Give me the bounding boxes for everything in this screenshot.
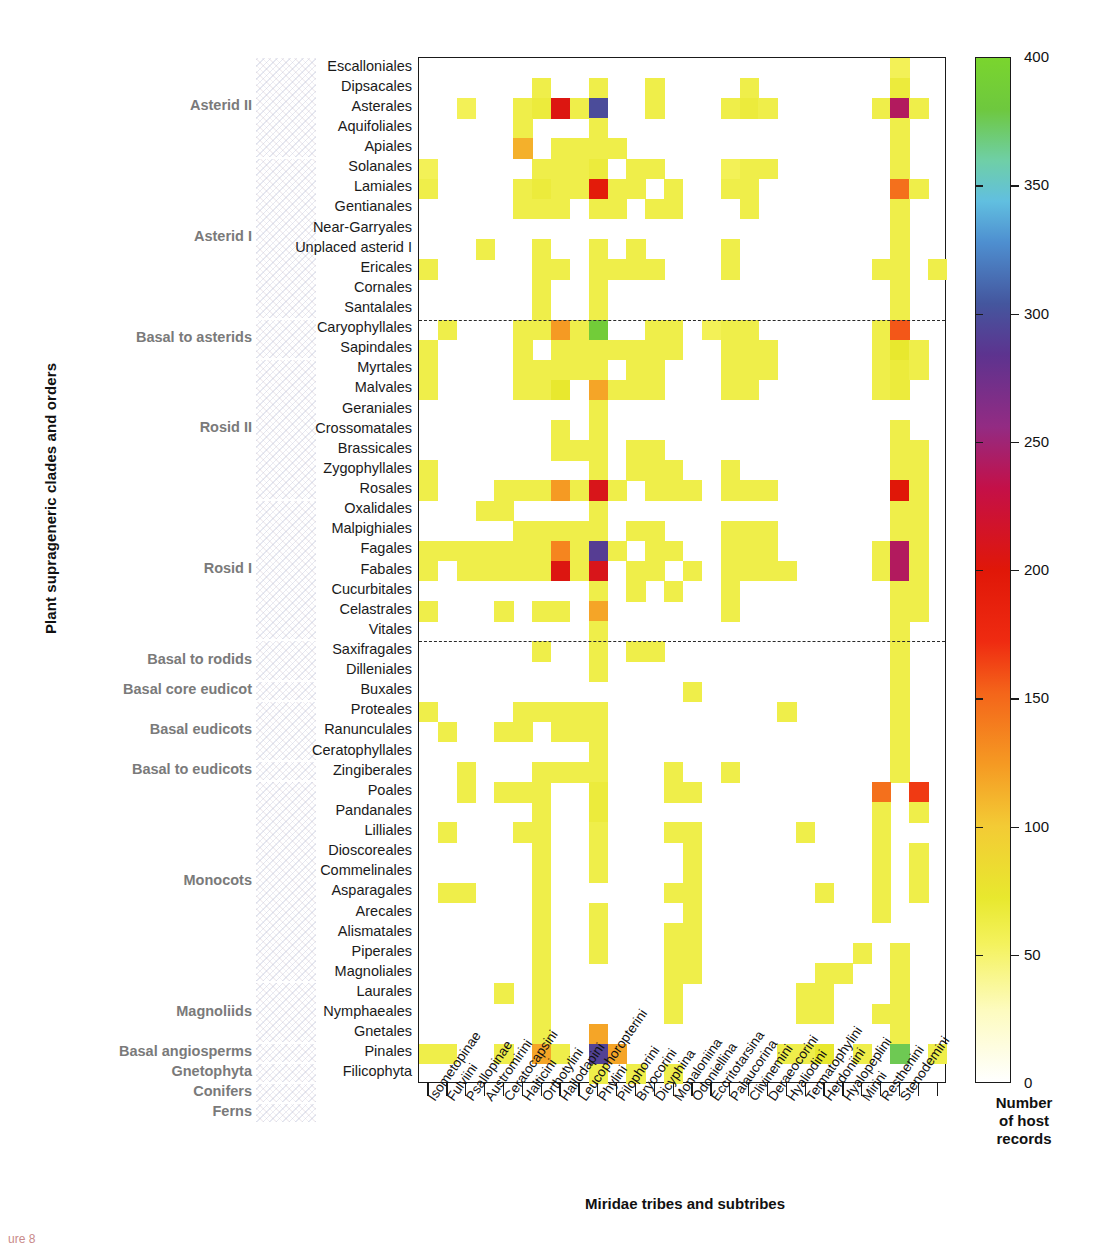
heatmap-cell [872, 883, 891, 904]
heatmap-cell [683, 883, 702, 904]
heatmap-cell [909, 340, 928, 361]
heatmap-cell [683, 923, 702, 944]
figure-canvas: Plant suprageneric clades and orders Mir… [0, 0, 1094, 1254]
heatmap-cell [551, 259, 570, 280]
heatmap-cell [532, 259, 551, 280]
heatmap-cell [721, 541, 740, 562]
heatmap-cell [589, 360, 608, 381]
heatmap-cell [890, 440, 909, 461]
heatmap-cell [664, 340, 683, 361]
heatmap-cell [721, 159, 740, 180]
heatmap-cell [589, 78, 608, 99]
heatmap-cell [494, 722, 513, 743]
heatmap-cell [872, 340, 891, 361]
heatmap-cell [909, 782, 928, 803]
heatmap-cell [890, 360, 909, 381]
colorbar-tick [975, 314, 983, 315]
heatmap-cell [909, 501, 928, 522]
row-label-lilliales: Lilliales [364, 824, 412, 837]
heatmap-cell [626, 340, 645, 361]
heatmap-cell [551, 561, 570, 582]
heatmap-cell [532, 98, 551, 119]
heatmap-cell [645, 259, 664, 280]
heatmap-cell [683, 682, 702, 703]
heatmap-cell [664, 480, 683, 501]
row-label-column: EscallonialesDipsacalesAsteralesAquifoli… [120, 0, 412, 1100]
heatmap-cell [796, 1004, 815, 1025]
row-label-santalales: Santalales [344, 301, 412, 314]
heatmap-cell [740, 78, 759, 99]
heatmap-cell [513, 380, 532, 401]
heatmap-cell [626, 179, 645, 200]
heatmap-cell [890, 279, 909, 300]
heatmap-cell [419, 360, 438, 381]
row-label-celastrales: Celastrales [339, 603, 412, 616]
heatmap-cell [890, 480, 909, 501]
row-label-asparagales: Asparagales [331, 884, 412, 897]
heatmap-cell [664, 923, 683, 944]
heatmap-cell [909, 601, 928, 622]
row-label-near-garryales: Near-Garryales [313, 221, 412, 234]
heatmap-cell [834, 963, 853, 984]
colorbar-tick-label: 400 [1024, 48, 1049, 65]
heatmap-cell [608, 480, 627, 501]
heatmap-cell [532, 299, 551, 320]
heatmap-cell [589, 521, 608, 542]
heatmap-cell [721, 581, 740, 602]
heatmap-cell [872, 843, 891, 864]
heatmap-cell [721, 460, 740, 481]
x-axis-title: Miridae tribes and subtribes [420, 1195, 950, 1212]
row-label-dilleniales: Dilleniales [346, 663, 412, 676]
heatmap-cell [815, 1004, 834, 1025]
heatmap-cell [513, 480, 532, 501]
heatmap-cell [589, 702, 608, 723]
heatmap-cell [890, 239, 909, 260]
heatmap-cell [683, 863, 702, 884]
heatmap-cell [890, 682, 909, 703]
heatmap-cell [721, 320, 740, 341]
row-label-aquifoliales: Aquifoliales [338, 120, 412, 133]
heatmap-cell [589, 118, 608, 139]
heatmap-cell [890, 179, 909, 200]
heatmap-cell [570, 541, 589, 562]
heatmap-cell [909, 883, 928, 904]
heatmap-cell [457, 98, 476, 119]
heatmap-cell [890, 561, 909, 582]
heatmap-cell [570, 98, 589, 119]
heatmap-cell [645, 521, 664, 542]
heatmap-cell [589, 561, 608, 582]
colorbar-tick [975, 698, 983, 699]
heatmap-cell [532, 863, 551, 884]
heatmap-cell [457, 561, 476, 582]
heatmap-cell [683, 843, 702, 864]
heatmap-cell [683, 963, 702, 984]
heatmap-cell [532, 380, 551, 401]
row-label-rosales: Rosales [360, 482, 412, 495]
heatmap-cell [513, 340, 532, 361]
heatmap-cell [721, 521, 740, 542]
colorbar-tick [1011, 827, 1019, 828]
heatmap-cell [551, 179, 570, 200]
heatmap-cell [476, 561, 495, 582]
colorbar-tick-label: 100 [1024, 818, 1049, 835]
heatmap-cell [551, 320, 570, 341]
heatmap-cell [740, 521, 759, 542]
heatmap-cell [476, 541, 495, 562]
heatmap-cell [645, 340, 664, 361]
row-label-dioscoreales: Dioscoreales [328, 844, 412, 857]
heatmap-cell [872, 380, 891, 401]
heatmap-cell [626, 380, 645, 401]
heatmap-cell [589, 742, 608, 763]
heatmap-cell [890, 601, 909, 622]
heatmap-cell [872, 782, 891, 803]
heatmap-cell [589, 460, 608, 481]
heatmap-cell [532, 822, 551, 843]
heatmap-cell [872, 822, 891, 843]
heatmap-cell [664, 883, 683, 904]
heatmap-cell [532, 480, 551, 501]
heatmap-cell [419, 460, 438, 481]
heatmap-cell [589, 279, 608, 300]
heatmap-cell [664, 581, 683, 602]
row-label-pinales: Pinales [364, 1045, 412, 1058]
heatmap-cell [589, 320, 608, 341]
